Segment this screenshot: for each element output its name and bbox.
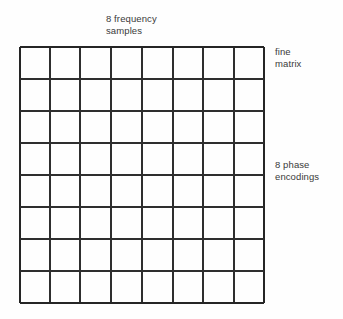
grid-cell[interactable] xyxy=(80,239,111,271)
grid-cell[interactable] xyxy=(173,143,203,175)
grid-cell[interactable] xyxy=(142,239,173,271)
grid-cell[interactable] xyxy=(50,143,80,175)
grid-cell[interactable] xyxy=(50,79,80,111)
grid-cell[interactable] xyxy=(173,111,203,143)
frequency-samples-label: 8 frequency samples xyxy=(106,13,157,36)
grid-cell[interactable] xyxy=(203,79,234,111)
grid-cell[interactable] xyxy=(173,79,203,111)
grid-cell[interactable] xyxy=(142,143,173,175)
grid-cell[interactable] xyxy=(80,47,111,79)
grid-cell[interactable] xyxy=(234,111,264,143)
grid-cell[interactable] xyxy=(20,175,50,207)
grid-cell[interactable] xyxy=(20,79,50,111)
grid-cell[interactable] xyxy=(142,79,173,111)
grid-cell[interactable] xyxy=(20,47,50,79)
grid-cell[interactable] xyxy=(234,239,264,271)
grid-cell[interactable] xyxy=(50,47,80,79)
grid-cell[interactable] xyxy=(142,47,173,79)
grid-cell[interactable] xyxy=(111,47,142,79)
grid-cell[interactable] xyxy=(142,175,173,207)
grid-cell[interactable] xyxy=(142,111,173,143)
grid-cell[interactable] xyxy=(80,207,111,239)
grid-cell[interactable] xyxy=(20,143,50,175)
grid-cell[interactable] xyxy=(80,143,111,175)
grid-cell[interactable] xyxy=(111,271,142,303)
grid-cell[interactable] xyxy=(203,143,234,175)
acquisition-matrix-grid[interactable] xyxy=(19,46,265,304)
phase-encodings-label: 8 phase encodings xyxy=(275,159,319,182)
grid-cell[interactable] xyxy=(50,271,80,303)
fine-matrix-label: fine matrix xyxy=(275,46,301,69)
grid-cell[interactable] xyxy=(80,79,111,111)
grid-cell[interactable] xyxy=(111,111,142,143)
grid-cell[interactable] xyxy=(142,271,173,303)
grid-cell[interactable] xyxy=(20,207,50,239)
grid-cell[interactable] xyxy=(50,175,80,207)
grid-cell[interactable] xyxy=(173,239,203,271)
grid-cell[interactable] xyxy=(203,271,234,303)
grid-cell[interactable] xyxy=(80,175,111,207)
grid-cell[interactable] xyxy=(234,47,264,79)
grid-cell[interactable] xyxy=(203,175,234,207)
grid-cell[interactable] xyxy=(173,271,203,303)
grid-cell[interactable] xyxy=(111,143,142,175)
figure-root: 8 frequency samples xyxy=(0,0,343,319)
grid-cell[interactable] xyxy=(20,271,50,303)
grid-cell[interactable] xyxy=(173,47,203,79)
grid-cell[interactable] xyxy=(203,239,234,271)
grid-cell[interactable] xyxy=(142,207,173,239)
grid-cell[interactable] xyxy=(111,207,142,239)
grid-cell[interactable] xyxy=(50,111,80,143)
grid-cell[interactable] xyxy=(111,175,142,207)
grid-cell[interactable] xyxy=(234,271,264,303)
grid-cell[interactable] xyxy=(173,207,203,239)
grid-cell[interactable] xyxy=(50,207,80,239)
grid-cell[interactable] xyxy=(20,239,50,271)
grid-cell[interactable] xyxy=(203,47,234,79)
grid-cell[interactable] xyxy=(111,239,142,271)
grid-svg xyxy=(19,46,265,304)
grid-cell[interactable] xyxy=(80,271,111,303)
grid-cell[interactable] xyxy=(111,79,142,111)
grid-cell[interactable] xyxy=(203,111,234,143)
grid-cell[interactable] xyxy=(20,111,50,143)
grid-cell[interactable] xyxy=(80,111,111,143)
grid-cell[interactable] xyxy=(234,79,264,111)
grid-cell[interactable] xyxy=(50,239,80,271)
grid-cell[interactable] xyxy=(234,143,264,175)
grid-cell[interactable] xyxy=(234,175,264,207)
grid-cell[interactable] xyxy=(203,207,234,239)
grid-cell[interactable] xyxy=(173,175,203,207)
grid-cell[interactable] xyxy=(234,207,264,239)
